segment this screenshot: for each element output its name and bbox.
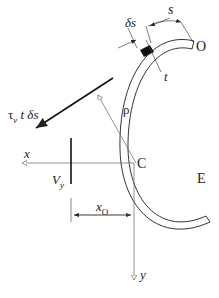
delta-s-label: δs xyxy=(125,16,136,29)
xo-subscript: O xyxy=(102,207,109,217)
rho-label: ρ xyxy=(123,103,130,116)
shear-centre-c-label: C xyxy=(137,157,146,171)
vy-label: Vy xyxy=(52,173,64,190)
s-label: s xyxy=(168,3,173,17)
xo-label: xO xyxy=(96,200,108,217)
point-o-label: O xyxy=(196,40,206,54)
delta-s-text: δs xyxy=(125,15,136,30)
v-subscript: y xyxy=(60,180,64,190)
v-symbol: V xyxy=(52,172,60,187)
diagram-drawing xyxy=(0,0,219,298)
thickness-label: t xyxy=(164,70,168,83)
rho-line xyxy=(98,95,136,163)
point-e-label: E xyxy=(197,172,206,186)
t-delta-s-text: t δs xyxy=(17,107,38,122)
shear-flow-label: τv t δs xyxy=(8,108,38,125)
element-block xyxy=(140,45,154,57)
y-axis-label: y xyxy=(140,268,146,281)
shear-centre-diagram: s δs O t τv t δs ρ x C E Vy xO y xyxy=(0,0,219,298)
x-axis-label: x xyxy=(24,147,30,160)
shear-force-arrow xyxy=(36,78,113,128)
